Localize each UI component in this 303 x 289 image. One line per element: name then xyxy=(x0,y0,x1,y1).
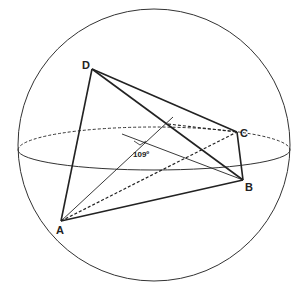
edge-AB xyxy=(61,180,243,221)
line-A-to-center xyxy=(61,117,173,221)
vertex-label-D: D xyxy=(82,59,90,71)
angle-label: 109º xyxy=(133,150,149,159)
edge-CB xyxy=(237,132,243,180)
vertex-label-A: A xyxy=(56,224,64,236)
angle-marker xyxy=(134,141,146,145)
tetrahedron-sphere-figure: 109º D C B A xyxy=(0,0,303,289)
equator-front xyxy=(18,150,290,170)
vertex-label-C: C xyxy=(240,127,248,139)
edge-AC-hidden xyxy=(61,132,237,221)
sphere-outline xyxy=(18,9,290,281)
edge-DA xyxy=(61,69,92,221)
vertex-label-B: B xyxy=(245,181,253,193)
diagram: 109º D C B A xyxy=(0,0,303,289)
